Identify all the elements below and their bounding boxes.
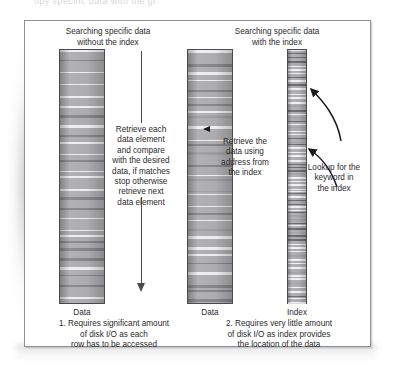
bar-stripe xyxy=(60,258,104,261)
bar-stripe xyxy=(188,236,232,239)
bar-stripe xyxy=(60,275,104,276)
down-arrow-shaft-upper xyxy=(141,51,142,123)
bar-stripe xyxy=(188,213,232,215)
bar-stripe xyxy=(188,220,232,221)
caption-with-index: 2. Requires very little amount of disk I… xyxy=(191,319,367,351)
bar-stripe xyxy=(60,235,104,237)
bar-stripe xyxy=(60,125,104,128)
bar-label-index: Index xyxy=(277,308,317,317)
bar-stripe xyxy=(288,251,306,252)
bar-stripe xyxy=(60,84,104,86)
bar-stripe xyxy=(60,171,104,172)
curved-arrow-lower-icon xyxy=(309,149,337,187)
bar-stripe xyxy=(60,60,104,61)
bar-stripe xyxy=(60,267,104,270)
bar-stripes xyxy=(60,50,104,303)
bar-stripe xyxy=(60,154,104,155)
curved-arrow-group xyxy=(297,45,373,195)
bar-stripe xyxy=(188,247,232,250)
bar-stripe xyxy=(288,225,306,226)
bar-stripe xyxy=(188,206,232,207)
bar-stripe xyxy=(188,72,232,74)
bar-stripe xyxy=(60,248,104,251)
bar-stripe xyxy=(288,232,306,233)
bar-stripe xyxy=(60,230,104,232)
bar-stripe xyxy=(60,208,104,210)
bar-stripe xyxy=(288,223,306,224)
bar-stripe xyxy=(288,235,306,236)
bar-stripe xyxy=(288,302,306,304)
figure-frame: Searching specific data without the inde… xyxy=(24,20,371,347)
bar-stripe xyxy=(188,299,232,302)
bar-stripe xyxy=(288,244,306,245)
bar-stripe xyxy=(188,194,232,195)
left-arrowhead-icon xyxy=(203,126,210,132)
bar-stripe xyxy=(188,290,232,292)
bar-stripe xyxy=(288,212,306,213)
bar-stripe xyxy=(288,263,306,264)
bar-stripe xyxy=(288,200,306,201)
bar-label-data-middle: Data xyxy=(187,308,233,317)
bar-stripe xyxy=(288,228,306,230)
bar-stripe xyxy=(60,160,104,162)
annotation-fetch-by-address: Retrieve the data using address from the… xyxy=(209,137,281,179)
bar-stripe xyxy=(288,247,306,249)
bar-stripe xyxy=(188,104,232,106)
bar-stripe xyxy=(60,285,104,287)
bar-stripe xyxy=(188,50,232,53)
bar-stripe xyxy=(288,298,306,299)
bar-stripe xyxy=(288,259,306,261)
bar-stripe xyxy=(288,275,306,277)
bar-stripe xyxy=(288,272,306,273)
bar-stripe xyxy=(188,254,232,255)
bar-stripe xyxy=(188,263,232,264)
bar-stripe xyxy=(288,204,306,205)
bar-stripe xyxy=(60,176,104,177)
caption-without-index: 1. Requires significant amount of disk I… xyxy=(39,319,189,351)
bar-stripe xyxy=(60,142,104,144)
heading-without-index: Searching specific data without the inde… xyxy=(33,27,183,48)
bar-stripe xyxy=(60,96,104,99)
bar-stripe xyxy=(60,135,104,137)
bar-stripe xyxy=(188,229,232,231)
bar-stripe xyxy=(288,278,306,280)
bar-stripe xyxy=(288,206,306,208)
bar-stripe xyxy=(188,90,232,92)
bar-stripe xyxy=(188,191,232,192)
bar-stripe xyxy=(60,50,104,52)
bar-stripe xyxy=(60,72,104,73)
bar-stripe xyxy=(188,64,232,67)
bar-stripe xyxy=(60,218,104,219)
down-arrow-shaft-lower xyxy=(141,197,142,285)
bar-stripe xyxy=(188,97,232,98)
bar-stripe xyxy=(188,126,232,129)
cut-off-header-text: opy specific data with the gi xyxy=(34,0,334,7)
bar-stripe xyxy=(288,267,306,269)
bar-stripe xyxy=(288,219,306,221)
bar-stripe xyxy=(288,291,306,293)
bar-stripe xyxy=(288,296,306,297)
bar-stripe xyxy=(288,196,306,198)
bar-stripe xyxy=(60,297,104,299)
bar-stripe xyxy=(60,189,104,192)
bar-stripe xyxy=(188,285,232,288)
curved-arrow-upper-icon xyxy=(311,89,341,141)
bar-stripe xyxy=(288,287,306,288)
bar-stripe xyxy=(188,116,232,118)
annotation-sequential-scan: Retrieve each data element and compare w… xyxy=(99,125,183,208)
bar-stripe xyxy=(288,210,306,211)
bar-stripe xyxy=(60,115,104,118)
bar-stripe xyxy=(188,272,232,275)
bar-stripe xyxy=(60,197,104,200)
down-arrow-icon xyxy=(137,283,145,292)
bar-stripe xyxy=(288,215,306,216)
bar-stripe xyxy=(288,255,306,257)
bar-stripe xyxy=(288,283,306,285)
bar-label-data-left: Data xyxy=(59,308,105,317)
bar-stripe xyxy=(188,80,232,82)
bar-stripe xyxy=(188,111,232,113)
bar-stripe xyxy=(60,241,104,243)
bar-stripe xyxy=(60,106,104,108)
bar-stripe xyxy=(288,239,306,241)
bar-stripe xyxy=(188,179,232,180)
